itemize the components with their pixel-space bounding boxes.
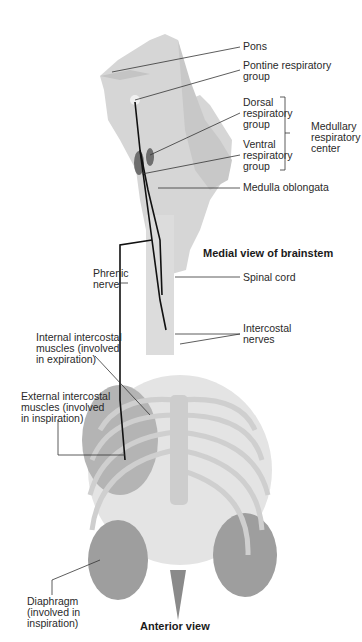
label-pontine-respiratory-group: Pontine respiratory group xyxy=(243,60,331,82)
label-medulla-oblongata: Medulla oblongata xyxy=(243,182,329,193)
label-phrenic-nerve: Phrenic nerve xyxy=(93,268,129,290)
rib-cage xyxy=(82,375,277,620)
spinal-cord xyxy=(146,215,174,355)
dorsal-respiratory-group-nucleus xyxy=(146,148,154,166)
label-external-intercostal-muscles: External intercostal muscles (involved i… xyxy=(21,391,110,424)
label-intercostal-nerves: Intercostal nerves xyxy=(243,323,291,345)
respiratory-centers-illustration xyxy=(0,0,362,642)
sternum xyxy=(170,395,188,505)
label-pons: Pons xyxy=(243,41,267,52)
label-spinal-cord: Spinal cord xyxy=(243,272,296,283)
label-internal-intercostal-muscles: Internal intercostal muscles (involved i… xyxy=(36,332,122,365)
label-diaphragm: Diaphragm (involved in inspiration) xyxy=(27,596,80,629)
title-medial-view-of-brainstem: Medial view of brainstem xyxy=(203,247,333,259)
title-anterior-view: Anterior view xyxy=(140,620,210,632)
label-medullary-respiratory-center: Medullary respiratory center xyxy=(311,121,361,154)
label-dorsal-respiratory-group: Dorsal respiratory group xyxy=(243,97,293,130)
label-ventral-respiratory-group: Ventral respiratory group xyxy=(243,139,293,172)
